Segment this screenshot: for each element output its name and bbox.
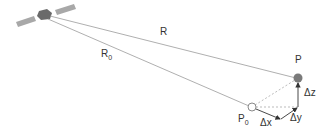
range-line-R <box>50 16 296 78</box>
label-dx: Δx <box>260 118 272 128</box>
label-dy: Δy <box>290 113 302 123</box>
point-P0 <box>248 103 256 111</box>
label-P0: P0 <box>238 114 249 126</box>
label-R: R <box>160 27 167 37</box>
point-P <box>294 74 303 83</box>
label-dz: Δz <box>304 88 316 98</box>
label-P: P <box>295 55 302 65</box>
diagram-canvas <box>0 0 325 134</box>
dotted-line-p0-p <box>255 80 295 105</box>
satellite-icon <box>16 4 76 27</box>
range-line-R0 <box>48 19 249 106</box>
label-R0: R0 <box>101 49 112 61</box>
